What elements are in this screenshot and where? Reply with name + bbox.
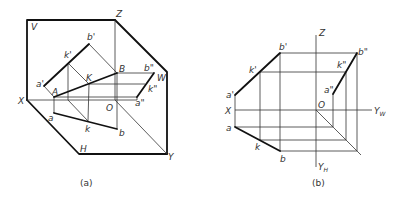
label-a-dprime: a": [135, 98, 145, 108]
label-A: A: [51, 87, 58, 97]
figure-a: V Z W X O H Y a' k' b' A K B a k b a" k"…: [17, 9, 175, 188]
label-b-dprime: b": [144, 63, 154, 73]
label-k: k: [85, 124, 91, 134]
label-b: b: [280, 154, 286, 164]
label-b-prime: b': [279, 42, 287, 52]
label-b-prime: b': [87, 32, 95, 42]
caption-b: (b): [312, 178, 325, 188]
label-a: a: [226, 123, 232, 133]
axis-oy: [115, 100, 167, 154]
label-O: O: [106, 103, 113, 113]
label-V: V: [31, 22, 38, 32]
caption-a: (a): [80, 178, 93, 188]
label-Z: Z: [115, 9, 123, 19]
label-k-prime: k': [64, 50, 72, 60]
label-X: X: [224, 106, 232, 116]
proj-b-prime-B: [89, 44, 117, 73]
h-plane-frame: [27, 100, 167, 154]
line-a-prime-b-prime: [235, 53, 280, 95]
figure-b: Z X O YW YH a' k' b' a k b a" k" b" (b): [224, 28, 387, 188]
label-Yh: YH: [318, 162, 329, 173]
label-W: W: [157, 73, 167, 83]
label-H: H: [80, 144, 87, 154]
label-k: k: [255, 142, 261, 152]
label-O: O: [318, 100, 325, 110]
diagonal-45: [316, 110, 361, 155]
label-a-prime: a': [226, 90, 234, 100]
label-Yw: YW: [374, 106, 387, 117]
label-a-dprime: a": [324, 85, 334, 95]
label-k-dprime: k": [337, 60, 346, 70]
label-k-prime: k': [249, 65, 257, 75]
label-X: X: [17, 96, 25, 106]
label-K: K: [86, 73, 93, 83]
projection-diagram: V Z W X O H Y a' k' b' A K B a k b a" k"…: [0, 0, 398, 204]
label-a-prime: a': [36, 79, 44, 89]
label-k-dprime: k": [148, 84, 157, 94]
label-a: a: [48, 113, 54, 123]
label-Y: Y: [168, 152, 175, 162]
label-b-dprime: b": [358, 47, 368, 57]
label-B: B: [119, 64, 125, 74]
label-Z: Z: [318, 28, 326, 38]
proj-K-k: [88, 84, 89, 121]
label-b: b: [119, 128, 125, 138]
